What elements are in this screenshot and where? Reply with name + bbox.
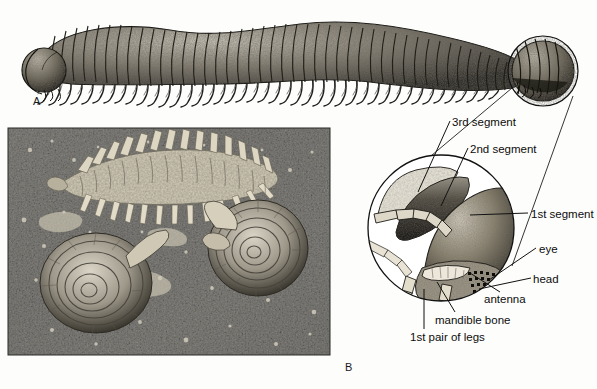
millipede-snails-photograph bbox=[8, 128, 330, 355]
panel-letter-b: B bbox=[345, 361, 353, 373]
callout-mandible-bone: mandible bone bbox=[435, 314, 510, 326]
callout-2nd-segment: 2nd segment bbox=[470, 143, 537, 155]
callout-3rd-segment: 3rd segment bbox=[452, 116, 517, 128]
callout-antenna: antenna bbox=[484, 293, 526, 305]
callout-1st-segment: 1st segment bbox=[531, 208, 594, 220]
callout-eye: eye bbox=[539, 243, 558, 255]
panel-letter-a: A bbox=[33, 95, 41, 107]
callout-head: head bbox=[533, 273, 559, 285]
biology-figure: A bbox=[0, 0, 597, 389]
callout-1st-pair-of-legs: 1st pair of legs bbox=[410, 331, 485, 343]
